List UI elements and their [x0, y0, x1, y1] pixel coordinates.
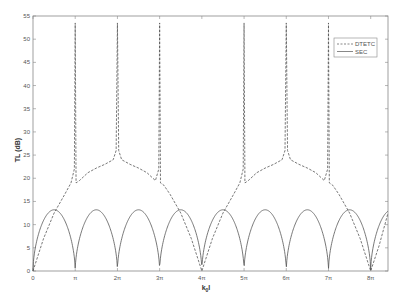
x-tick-label: 6π — [283, 275, 290, 281]
y-tick-label: 55 — [23, 13, 30, 19]
x-tick-label: π — [73, 275, 77, 281]
y-tick-label: 45 — [23, 59, 30, 65]
x-tick-label: 7π — [325, 275, 332, 281]
legend: DTETC SEC — [334, 38, 377, 57]
x-tick-label: 4π — [198, 275, 205, 281]
y-tick-label: 0 — [27, 268, 31, 274]
y-tick-label: 5 — [27, 245, 31, 251]
y-tick-label: 35 — [23, 106, 30, 112]
y-tick-label: 20 — [23, 175, 30, 181]
x-tick-label: 8π — [367, 275, 374, 281]
x-tick-label: 0 — [31, 275, 35, 281]
y-tick-label: 30 — [23, 129, 30, 135]
y-tick-label: 10 — [23, 222, 30, 228]
x-tick-label: 3π — [156, 275, 163, 281]
legend-sec-label: SEC — [355, 49, 368, 55]
y-tick-label: 50 — [23, 36, 30, 42]
x-tick-label: 5π — [240, 275, 247, 281]
y-tick-label: 40 — [23, 83, 30, 89]
y-axis-label: TL (dB) — [14, 138, 22, 162]
y-tick-label: 25 — [23, 152, 30, 158]
legend-dtetc-label: DTETC — [355, 41, 376, 47]
x-tick-label: 2π — [114, 275, 121, 281]
x-axis-label: k0l — [202, 284, 211, 293]
y-tick-label: 15 — [23, 198, 30, 204]
chart: 0510152025303540455055 0π2π3π4π5π6π7π8π … — [0, 0, 402, 308]
